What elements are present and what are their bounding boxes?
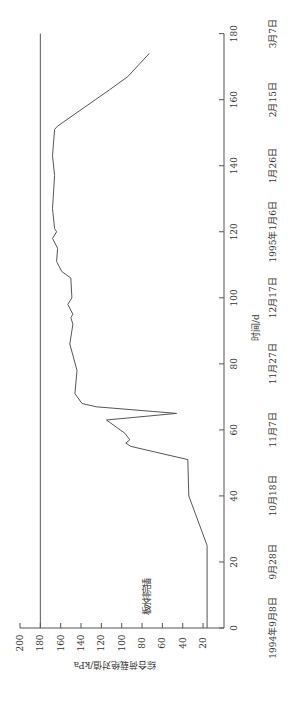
x-axis-title: 时间/d — [250, 314, 261, 341]
date-label: 11月7日 — [268, 412, 278, 447]
date-label: 1994年9月8日 — [267, 597, 278, 658]
date-label: 2月15日 — [268, 82, 278, 117]
date-label: 11月27日 — [268, 343, 278, 384]
y-tick-label: 140 — [76, 634, 86, 651]
axes — [20, 34, 224, 628]
date-label: 12月17日 — [268, 277, 278, 318]
data-series — [53, 54, 208, 629]
y-tick-label: 160 — [56, 634, 66, 651]
x-tick-label: 120 — [229, 223, 239, 240]
x-tick-label: 60 — [229, 424, 239, 436]
x-tick-label: 140 — [229, 157, 239, 174]
y-tick-label: 40 — [178, 637, 188, 649]
y-tick-label: 120 — [96, 634, 106, 651]
y-tick-label: 200 — [15, 634, 25, 651]
x-tick-label: 100 — [229, 289, 239, 306]
y-axis-title: 综合荷载绝对值/kPa — [73, 660, 156, 671]
x-tick-label: 40 — [229, 490, 239, 502]
rotated-line-chart: 01994年9月8日209月28日4010月18日6011月7日8011月27日… — [0, 0, 288, 706]
y-tick-label: 80 — [137, 637, 147, 649]
date-label: 1月26日 — [268, 148, 278, 183]
x-tick-label: 160 — [229, 91, 239, 108]
y-tick-label: 180 — [35, 634, 45, 651]
y-tick-label: 60 — [157, 637, 167, 649]
annotation-char: 板 — [141, 606, 152, 615]
y-tick-label: 20 — [198, 637, 208, 649]
load-curve — [53, 54, 208, 629]
x-tick-label: 80 — [229, 358, 239, 370]
axis-labels: 01994年9月8日209月28日4010月18日6011月7日8011月27日… — [15, 19, 278, 671]
date-label: 10月18日 — [268, 475, 278, 516]
date-label: 9月28日 — [268, 544, 278, 579]
x-tick-label: 0 — [229, 625, 239, 631]
x-tick-label: 20 — [229, 556, 239, 568]
date-label: 1995年1月6日 — [267, 201, 278, 262]
y-tick-label: 100 — [117, 634, 127, 651]
x-tick-label: 180 — [229, 25, 239, 42]
date-label: 3月7日 — [268, 19, 278, 48]
